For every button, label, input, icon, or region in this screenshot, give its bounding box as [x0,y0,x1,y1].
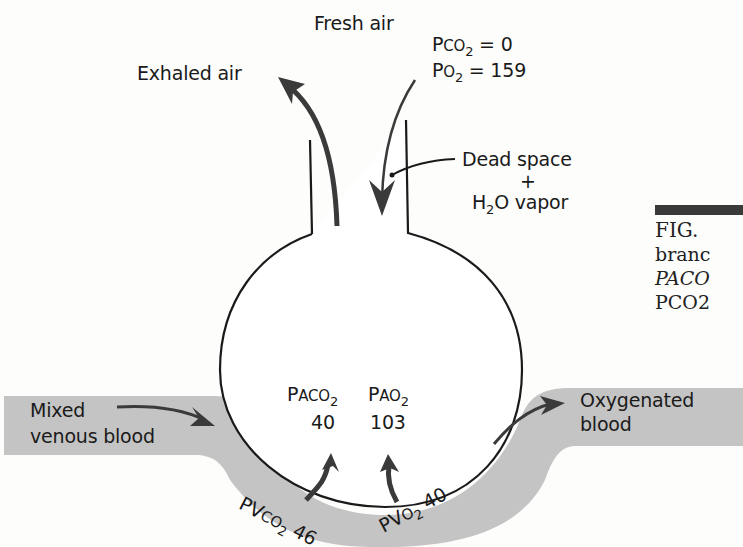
h2o-vapor-label: H2O vapor [472,191,568,216]
caption-line-4: PCO2 [655,290,710,314]
exhaled-air-label: Exhaled air [137,62,242,84]
caption-divider [655,205,743,215]
dead-space-plus: + [520,170,536,192]
alveolar-pco2-value: 40 [311,411,335,433]
mixed-venous-label-1: Mixed [30,399,85,421]
alveolar-pco2-label: PACO2 [287,383,338,408]
fresh-air-pco2: PCO2 = 0 [432,33,513,58]
alveolar-po2-label: PAO2 [368,383,409,408]
fresh-air-label: Fresh air [314,12,394,34]
dead-space-label: Dead space [462,148,572,170]
caption-fig: FIG. [655,218,698,242]
caption-line-3: PACO [655,266,710,290]
fresh-air-po2: PO2 = 159 [432,59,526,84]
mixed-venous-label-2: venous blood [30,425,155,447]
caption-line-2: branc [655,242,710,266]
alveolar-po2-value: 103 [370,411,406,433]
oxygenated-label-2: blood [580,413,632,435]
alveolus-outline [220,120,522,507]
alveolar-gas-exchange-diagram: Fresh air PCO2 = 0 PO2 = 159 Exhaled air… [0,0,743,547]
oxygenated-label-1: Oxygenated [580,389,694,411]
